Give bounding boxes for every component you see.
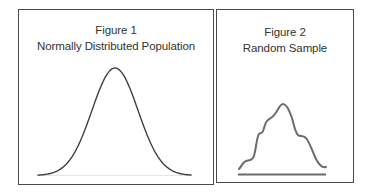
- figure-1-panel: Figure 1 Normally Distributed Population: [18, 9, 214, 185]
- figure-2-title: Random Sample: [217, 41, 353, 55]
- figure-1-title: Normally Distributed Population: [19, 39, 213, 53]
- figure-2-panel: Figure 2 Random Sample: [216, 9, 354, 183]
- figure-2-label: Figure 2: [217, 25, 353, 39]
- figure-1-label: Figure 1: [19, 23, 213, 37]
